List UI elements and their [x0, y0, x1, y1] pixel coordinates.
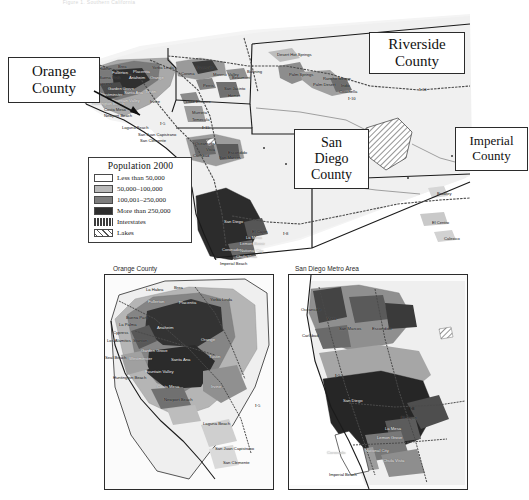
legend-swatch-0: [94, 174, 113, 182]
sd-city-national-city: National City: [365, 449, 389, 453]
callout-orange-line1: Orange: [32, 63, 76, 79]
main-shield-i-10: I-10: [419, 87, 427, 92]
main-city-imperial-beach: Imperial Beach: [220, 262, 247, 266]
legend-swatch-5: [94, 229, 113, 237]
oc-city-tustin: Tustin: [209, 355, 220, 359]
legend-swatch-4: [94, 218, 113, 226]
sd-city-san-diego: San Diego: [343, 399, 363, 403]
oc-city-garden-grove: Garden Grove: [141, 349, 168, 353]
oc-city-costa-mesa: Costa Mesa: [157, 385, 179, 389]
main-shield-i-15: I-15: [202, 125, 210, 130]
sd-shield-i-8: I-8: [409, 406, 414, 411]
inset-title-san-diego-metro: San Diego Metro Area: [295, 265, 359, 272]
oc-city-anaheim: Anaheim: [157, 326, 174, 330]
legend-label-1: 50,000–100,000: [117, 185, 163, 193]
inset-orange-county-labels: La HabraBreaFullertonPlacentiaYorba Lind…: [105, 275, 273, 489]
oc-city-brea: Brea: [174, 286, 183, 290]
oc-city-seal-beach: Seal Beach: [105, 356, 126, 360]
oc-city-newport-beach: Newport Beach: [164, 398, 193, 402]
oc-city-buena-park: Buena Park: [126, 316, 148, 320]
map-legend[interactable]: Population 2000 Less than 50,00050,000–1…: [88, 157, 192, 243]
sd-city-vista: Vista: [327, 317, 336, 321]
sd-city-chula-vista: Chula Vista: [383, 459, 404, 463]
main-shield-i-10: I-10: [348, 96, 356, 101]
oc-city-stanton: Stanton: [133, 339, 147, 343]
oc-city-la-palma: La Palma: [119, 323, 137, 327]
oc-city-westminster: Westminster: [129, 357, 152, 361]
sd-city-escondido: Escondido: [372, 327, 392, 331]
figure-southern-california-population: Figure 1. Southern California: [0, 0, 529, 500]
legend-item-0[interactable]: Less than 50,000: [94, 173, 187, 183]
legend-label-4: Interstates: [117, 218, 146, 226]
sd-city-lemon-grove: Lemon Grove: [377, 436, 402, 440]
oc-city-yorba-linda: Yorba Linda: [210, 298, 232, 302]
oc-city-fountain-valley: Fountain Valley: [145, 370, 174, 374]
callout-imperial-line1: Imperial: [469, 133, 513, 148]
sd-city-imperial-beach: Imperial Beach: [329, 473, 357, 477]
legend-title: Population 2000: [94, 161, 187, 171]
sd-city-el-cajon: El Cajon: [401, 416, 417, 420]
figure-caption-top: Figure 1. Southern California: [44, 0, 154, 8]
callout-sandiego-line1: San: [321, 135, 342, 150]
inset-map-orange-county[interactable]: La HabraBreaFullertonPlacentiaYorba Lind…: [104, 274, 274, 490]
legend-item-1[interactable]: 50,000–100,000: [94, 184, 187, 194]
legend-swatch-2: [94, 196, 113, 204]
legend-item-2[interactable]: 100,001–250,000: [94, 195, 187, 205]
legend-swatch-3: [94, 207, 113, 215]
legend-item-4[interactable]: Interstates: [94, 217, 187, 227]
inset-map-san-diego-metro[interactable]: OceansideVistaCarlsbadSan MarcosEscondid…: [288, 274, 468, 490]
legend-swatch-1: [94, 185, 113, 193]
sd-city-la-mesa: La Mesa: [385, 427, 401, 431]
oc-city-san-clemente: San Clemente: [223, 461, 250, 465]
callout-riverside-line1: Riverside: [388, 36, 446, 52]
sd-city-san-marcos: San Marcos: [339, 327, 361, 331]
legend-label-2: 100,001–250,000: [117, 196, 166, 204]
oc-city-los-alamitos: Los Alamitos: [107, 339, 131, 343]
main-shield-i-5: I-5: [160, 121, 165, 126]
callout-sandiego-line3: County: [311, 167, 352, 182]
oc-city-cypress: Cypress: [113, 331, 128, 335]
oc-city-san-juan-capistrano: San Juan Capistrano: [215, 447, 254, 451]
legend-rows: Less than 50,00050,000–100,000100,001–25…: [94, 173, 187, 238]
orange-county-leader-arrow: [92, 85, 156, 125]
inset-san-diego-labels: OceansideVistaCarlsbadSan MarcosEscondid…: [289, 275, 467, 489]
sd-city-carlsbad: Carlsbad: [302, 334, 319, 338]
oc-city-irvine: Irvine: [211, 385, 221, 389]
callout-sandiego-line2: Diego: [314, 151, 348, 166]
callout-orange-line2: County: [32, 80, 76, 96]
oc-shield-i-5: I-5: [255, 403, 260, 408]
callout-riverside-line2: County: [395, 53, 439, 69]
callout-san-diego-county[interactable]: San Diego County: [294, 129, 369, 189]
main-shield-i-8: I-8: [283, 231, 288, 236]
callout-riverside-county[interactable]: Riverside County: [369, 32, 465, 74]
sd-city-coronado: Coronado: [327, 451, 345, 455]
sd-city-oceanside: Oceanside: [301, 308, 321, 312]
inset-title-orange-county: Orange County: [113, 265, 157, 272]
sd-shield-i-5: I-5: [335, 373, 340, 378]
oc-city-huntington-beach: Huntington Beach: [113, 376, 146, 380]
oc-city-laguna-beach: Laguna Beach: [203, 422, 230, 426]
legend-label-5: Lakes: [117, 229, 134, 237]
oc-city-orange: Orange: [201, 338, 215, 342]
callout-imperial-county[interactable]: Imperial County: [455, 127, 528, 171]
oc-city-santa-ana: Santa Ana: [171, 358, 190, 362]
legend-item-3[interactable]: More than 250,000: [94, 206, 187, 216]
legend-label-0: Less than 50,000: [117, 174, 165, 182]
oc-city-placentia: Placentia: [179, 301, 196, 305]
oc-city-fullerton: Fullerton: [148, 300, 164, 304]
callout-imperial-line2: County: [472, 148, 510, 163]
legend-item-5[interactable]: Lakes: [94, 228, 187, 238]
legend-label-3: More than 250,000: [117, 207, 170, 215]
callout-orange-county[interactable]: Orange County: [8, 57, 100, 103]
oc-city-la-habra: La Habra: [146, 288, 163, 292]
